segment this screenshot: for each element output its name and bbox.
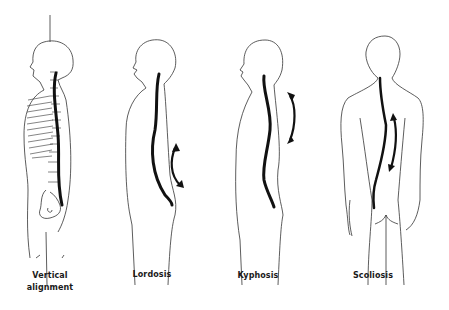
spinal-curvature-figure: Vertical alignment Lordosis Kyphosis Sco… [0,0,449,310]
illustration [0,0,449,310]
spine-vertical [54,73,62,205]
label-scoliosis: Scoliosis [343,270,403,282]
label-lordosis: Lordosis [122,269,182,281]
kyphosis-figure [236,40,283,285]
label-kyphosis: Kyphosis [228,270,288,282]
vertical-alignment-figure [24,15,73,285]
scoliosis-curve-arrow [391,118,396,168]
label-line1: Vertical [20,270,80,282]
label-line2: alignment [20,282,80,294]
spine-lordosis [152,74,172,205]
spine-kyphosis [264,76,274,207]
lordosis-curve-arrow [172,148,180,185]
lordosis-figure [126,40,176,285]
kyphosis-curve-arrow [290,96,295,140]
label-vertical-alignment: Vertical alignment [20,270,80,294]
spine-scoliosis [373,78,386,208]
